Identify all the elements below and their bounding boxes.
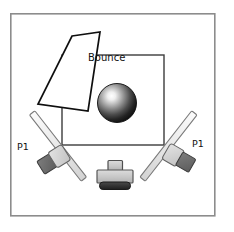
camera-base bbox=[100, 182, 131, 190]
p1-left-label: P1 bbox=[17, 141, 29, 152]
lighting-diagram-root: Bounce P1 P1 bbox=[0, 0, 234, 232]
bounce-label: Bounce bbox=[88, 52, 125, 63]
camera-body bbox=[97, 170, 133, 183]
lighting-diagram-canvas: Bounce P1 P1 bbox=[0, 0, 234, 232]
p1-right-label: P1 bbox=[192, 138, 204, 149]
